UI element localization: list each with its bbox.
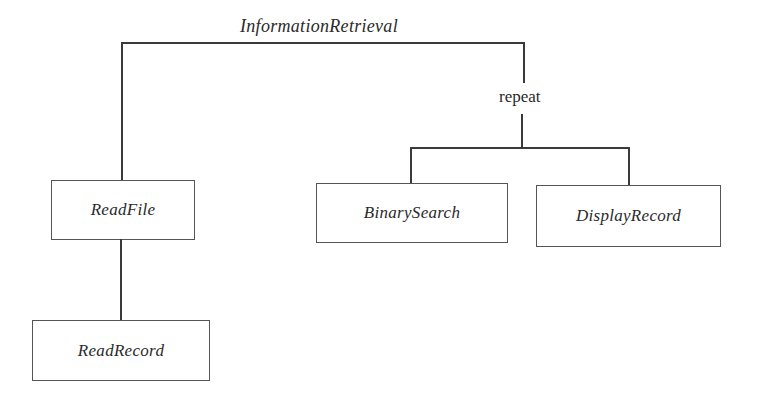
connector-root-to-readfile xyxy=(121,42,123,181)
connector-to-binarysearch xyxy=(410,147,412,184)
connector-readfile-to-readrecord xyxy=(120,239,122,321)
repeat-children-horizontal-connector xyxy=(410,147,630,149)
root-node-label: InformationRetrieval xyxy=(240,16,398,37)
node-readrecord-label: ReadRecord xyxy=(78,341,164,361)
node-readrecord: ReadRecord xyxy=(32,320,210,381)
repeat-construct-label: repeat xyxy=(499,87,541,107)
node-binarysearch-label: BinarySearch xyxy=(364,203,460,223)
connector-repeat-to-children xyxy=(521,114,523,149)
node-binarysearch: BinarySearch xyxy=(316,183,508,243)
connector-to-displayrecord xyxy=(628,147,630,186)
connector-root-to-repeat xyxy=(523,42,525,83)
node-displayrecord: DisplayRecord xyxy=(536,185,721,247)
node-readfile-label: ReadFile xyxy=(91,200,156,220)
root-horizontal-connector xyxy=(121,42,525,44)
node-readfile: ReadFile xyxy=(51,180,195,240)
node-displayrecord-label: DisplayRecord xyxy=(576,206,681,226)
